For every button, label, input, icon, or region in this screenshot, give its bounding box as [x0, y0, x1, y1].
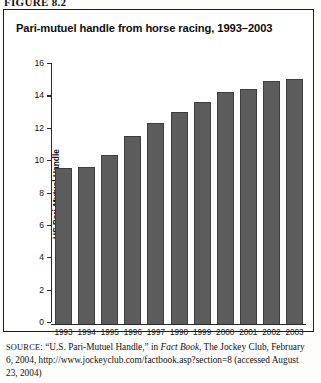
x-tick-label: 1998	[167, 328, 190, 337]
figure-page: FIGURE 8.2 Pari-mutuel handle from horse…	[0, 0, 321, 383]
bar-cell	[121, 65, 144, 324]
x-tick-label: 2000	[214, 328, 237, 337]
y-tick-mark	[47, 63, 51, 64]
y-tick-mark	[47, 193, 51, 194]
bar	[194, 102, 211, 324]
y-tick-mark	[47, 322, 51, 323]
bar	[286, 79, 303, 323]
source-text-part1: : “U.S. Pari-Mutuel Handle,” in	[40, 342, 160, 352]
figure-number-label: FIGURE 8.2	[4, 0, 66, 8]
x-tick-label: 1999	[191, 328, 214, 337]
bar	[171, 112, 188, 324]
y-tick-label: 16	[34, 58, 44, 68]
x-tick-label: 2003	[283, 328, 306, 337]
y-tick-label: 12	[34, 123, 44, 133]
x-tick-label: 2002	[260, 328, 283, 337]
figure-frame: Pari-mutuel handle from horse racing, 19…	[3, 9, 314, 332]
bar-cell	[144, 65, 167, 324]
bar	[124, 136, 141, 324]
x-axis-labels: 1993199419951996199719981999200020012002…	[52, 328, 306, 337]
y-tick-label: 4	[39, 252, 44, 262]
plot-area: US Pari-Mutuel Handle 0246810121416 1993…	[51, 63, 306, 325]
bar	[240, 89, 257, 324]
y-tick-mark	[47, 290, 51, 291]
bar-cell	[167, 65, 190, 324]
bar-cell	[260, 65, 283, 324]
y-tick-mark	[47, 128, 51, 129]
x-tick-label: 1997	[144, 328, 167, 337]
x-tick-label: 1994	[75, 328, 98, 337]
x-tick-label: 1995	[98, 328, 121, 337]
x-tick-label: 1993	[52, 328, 75, 337]
y-tick-label: 2	[39, 285, 44, 295]
y-tick-label: 6	[39, 220, 44, 230]
y-tick-label: 0	[39, 317, 44, 327]
source-prefix: SOURCE	[6, 343, 40, 352]
y-tick-label: 14	[34, 90, 44, 100]
y-tick-label: 8	[39, 188, 44, 198]
bar-series	[52, 65, 306, 324]
bar-cell	[75, 65, 98, 324]
bar	[217, 92, 234, 323]
bar-cell	[191, 65, 214, 324]
y-tick-mark	[47, 95, 51, 96]
bar-cell	[283, 65, 306, 324]
bar	[55, 168, 72, 323]
y-tick-mark	[47, 225, 51, 226]
bar-cell	[52, 65, 75, 324]
source-italic-title: Fact Book	[161, 342, 199, 352]
source-note: SOURCE: “U.S. Pari-Mutuel Handle,” in Fa…	[6, 341, 312, 379]
x-axis-line	[51, 324, 306, 325]
bar-cell	[98, 65, 121, 324]
x-tick-label: 1996	[121, 328, 144, 337]
x-tick-label: 2001	[237, 328, 260, 337]
y-tick-label: 10	[34, 155, 44, 165]
y-tick-mark	[47, 257, 51, 258]
chart-title: Pari-mutuel handle from horse racing, 19…	[16, 22, 272, 34]
y-tick-mark	[47, 160, 51, 161]
bar	[263, 81, 280, 324]
bar-cell	[214, 65, 237, 324]
bar	[78, 167, 95, 324]
bar	[147, 123, 164, 324]
bar	[101, 155, 118, 323]
bar-cell	[237, 65, 260, 324]
